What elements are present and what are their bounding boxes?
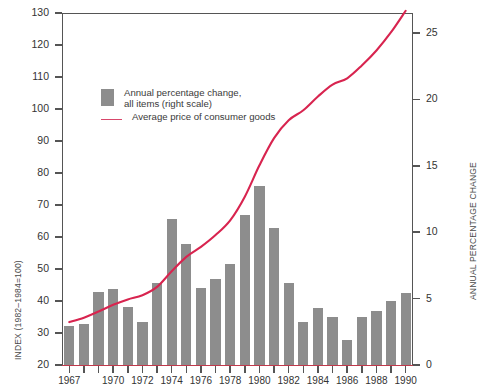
x-tick-mark — [229, 366, 231, 373]
x-tick-mark — [259, 366, 261, 373]
legend-label-line: Average price of consumer goods — [132, 112, 275, 123]
x-tick-mark — [273, 366, 275, 373]
x-tick-mark — [98, 366, 100, 373]
x-tick-mark — [361, 366, 363, 373]
x-tick-mark — [112, 366, 114, 373]
legend-label-bars: Annual percentage change, all items (rig… — [124, 88, 241, 109]
x-tick-mark — [390, 366, 392, 373]
x-tick-mark — [200, 366, 202, 373]
x-tick-label: 1967 — [49, 375, 89, 386]
x-tick-mark — [244, 366, 246, 373]
x-tick-mark — [69, 366, 71, 373]
legend-item-bars: Annual percentage change, all items (rig… — [101, 88, 275, 109]
chart-legend: Annual percentage change, all items (rig… — [101, 88, 275, 126]
line-swatch-icon — [101, 119, 122, 120]
x-tick-mark — [215, 366, 217, 373]
x-tick-mark — [376, 366, 378, 373]
x-tick-mark — [156, 366, 158, 373]
x-tick-mark — [332, 366, 334, 373]
average-price-line — [69, 11, 405, 322]
x-tick-mark — [171, 366, 173, 373]
x-tick-mark — [127, 366, 129, 373]
x-tick-mark — [142, 366, 144, 373]
x-tick-mark — [317, 366, 319, 373]
x-tick-mark — [303, 366, 305, 373]
x-tick-label: 1990 — [386, 375, 426, 386]
legend-item-line: Average price of consumer goods — [101, 112, 275, 123]
x-tick-mark — [288, 366, 290, 373]
x-tick-mark — [83, 366, 85, 373]
x-tick-mark — [186, 366, 188, 373]
bar-swatch-icon — [101, 89, 114, 106]
x-tick-mark — [346, 366, 348, 373]
x-tick-mark — [405, 366, 407, 373]
